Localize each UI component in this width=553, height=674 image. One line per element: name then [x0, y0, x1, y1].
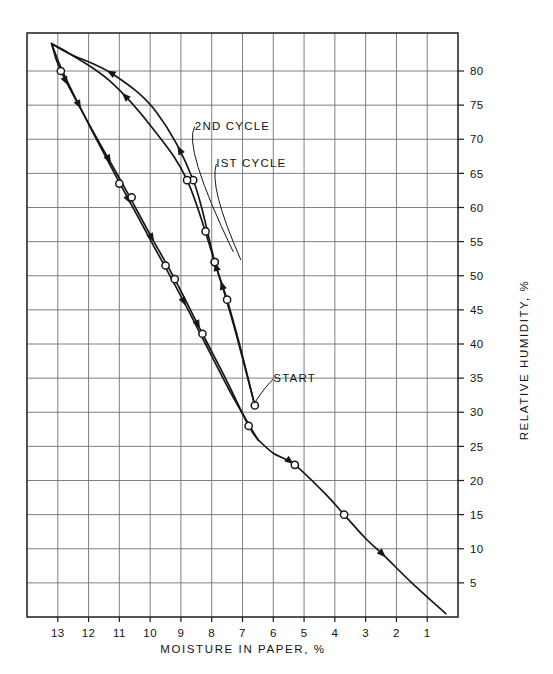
- x-tick-label: 7: [239, 627, 246, 639]
- x-tick-label: 8: [208, 627, 215, 639]
- direction-arrows: [61, 67, 389, 559]
- y-tick-label: 20: [470, 475, 484, 487]
- curve-series: [52, 44, 255, 406]
- annotation-leader-line: [215, 164, 241, 260]
- y-tick-label: 45: [470, 304, 484, 316]
- tick-marks: [58, 71, 464, 622]
- x-tick-label: 10: [143, 627, 157, 639]
- y-tick-label: 10: [470, 543, 484, 555]
- y-tick-label: 75: [470, 99, 484, 111]
- y-tick-label: 55: [470, 236, 484, 248]
- y-axis-title: RELATIVE HUMIDITY, %: [518, 280, 530, 441]
- chart-annotation-label: START: [273, 372, 316, 384]
- data-point-marker: [116, 180, 123, 187]
- y-tick-label: 60: [470, 202, 484, 214]
- annotation-leader-line: [192, 127, 233, 252]
- data-point-marker: [171, 276, 178, 283]
- data-point-marker: [340, 511, 347, 518]
- y-tick-label: 15: [470, 509, 484, 521]
- data-point-marker: [245, 422, 252, 429]
- direction-arrow-icon: [217, 280, 227, 291]
- y-tick-label: 40: [470, 338, 484, 350]
- data-point-marker: [57, 67, 64, 74]
- y-tick-label: 80: [470, 65, 484, 77]
- x-axis-title: MOISTURE IN PAPER, %: [160, 643, 325, 655]
- data-point-marker: [128, 194, 135, 201]
- y-tick-label: 5: [470, 577, 477, 589]
- x-tick-label: 3: [362, 627, 369, 639]
- x-tick-label: 11: [113, 627, 126, 639]
- chart-annotation-label: 2ND CYCLE: [195, 120, 270, 132]
- curve-series: [258, 440, 446, 614]
- x-tick-label: 1: [424, 627, 431, 639]
- x-tick-label: 9: [178, 627, 185, 639]
- x-tick-label: 5: [301, 627, 308, 639]
- y-tick-label: 30: [470, 406, 484, 418]
- y-tick-label: 50: [470, 270, 484, 282]
- curve-series: [52, 44, 255, 406]
- y-tick-labels: 5101520253035404550556065707580: [470, 65, 484, 589]
- annotation-leader-line: [254, 379, 273, 403]
- y-tick-label: 35: [470, 372, 484, 384]
- x-tick-label: 2: [393, 627, 400, 639]
- x-tick-label: 6: [270, 627, 277, 639]
- x-tick-labels: 13121110987654321: [51, 627, 431, 639]
- data-point-marker: [224, 296, 231, 303]
- data-point-marker: [291, 461, 298, 468]
- data-point-marker: [162, 262, 169, 269]
- x-tick-label: 12: [82, 627, 96, 639]
- hysteresis-chart-svg: 13121110987654321 5101520253035404550556…: [0, 0, 553, 674]
- data-point-marker: [211, 259, 218, 266]
- data-point-marker: [183, 177, 190, 184]
- direction-arrow-icon: [174, 144, 185, 155]
- data-point-marker: [199, 330, 206, 337]
- chart-figure: 13121110987654321 5101520253035404550556…: [0, 0, 553, 674]
- y-tick-label: 65: [470, 168, 484, 180]
- x-tick-label: 4: [331, 627, 338, 639]
- chart-annotation-label: IST CYCLE: [216, 157, 286, 169]
- data-point-marker: [202, 228, 209, 235]
- x-tick-label: 13: [51, 627, 65, 639]
- y-tick-label: 70: [470, 133, 484, 145]
- y-tick-label: 25: [470, 441, 484, 453]
